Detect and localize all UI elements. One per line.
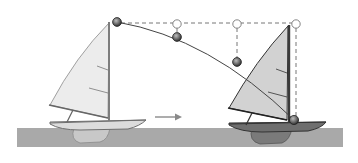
hollow-ball-icon xyxy=(173,20,181,28)
boat-initial xyxy=(49,22,146,143)
diagram-canvas xyxy=(0,0,358,163)
reference-balls xyxy=(173,20,300,28)
sailboat-ball-drop-diagram xyxy=(0,0,358,163)
hollow-ball-icon xyxy=(233,20,241,28)
ball-icon xyxy=(233,58,242,67)
ball-icon xyxy=(113,18,122,27)
boom-vang xyxy=(67,110,73,122)
sail-icon xyxy=(50,23,109,118)
motion-arrow-icon xyxy=(155,114,182,121)
ball-icon xyxy=(173,33,182,42)
ball-icon xyxy=(289,115,298,124)
hollow-ball-icon xyxy=(292,20,300,28)
boat-later xyxy=(228,25,326,144)
